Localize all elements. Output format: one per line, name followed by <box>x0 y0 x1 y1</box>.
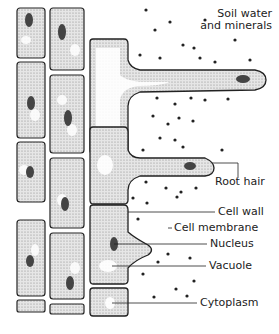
root-hair-diagram <box>0 0 279 334</box>
soil-water-particles <box>131 8 251 298</box>
root-hair-nucleus <box>236 75 250 83</box>
label-soil-water-line-2: and minerals <box>200 20 272 32</box>
label-nucleus: Nucleus <box>210 238 254 250</box>
label-root-hair: Root hair <box>215 176 265 188</box>
label-cell-wall: Cell wall <box>218 206 264 218</box>
label-soil-water: Soil water and minerals <box>200 8 272 32</box>
root-hair-cell-middle <box>90 127 214 204</box>
label-vacuole: Vacuole <box>209 260 252 272</box>
label-cytoplasm: Cytoplasm <box>200 297 258 309</box>
label-cell-membrane: Cell membrane <box>174 222 258 234</box>
root-hair-cell-lower <box>90 205 152 316</box>
